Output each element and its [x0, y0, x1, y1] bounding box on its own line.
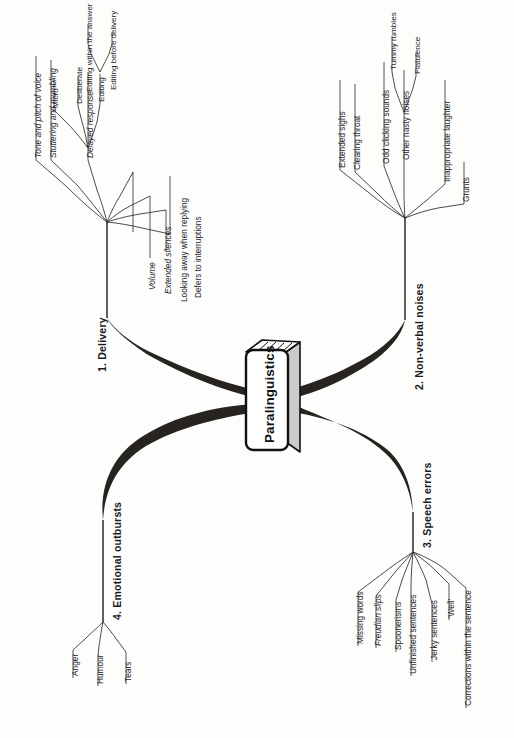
node-micro[interactable]: Micro: [52, 88, 60, 108]
branch-label-speech-errors[interactable]: 3. Speech errors: [422, 463, 433, 549]
node-volume[interactable]: Volume: [148, 262, 156, 290]
node-editing-before-delivery[interactable]: Editing before delivery: [110, 11, 118, 90]
node-tone-and-pitch-of-voice[interactable]: Tone and pitch of voice: [34, 73, 42, 158]
node-well[interactable]: 'Well': [447, 599, 455, 618]
node-odd-clicking-sounds[interactable]: Odd clicking sounds: [382, 90, 390, 164]
node-unfinished-sentences[interactable]: Unfinished sentences: [409, 595, 417, 674]
main-branch-3-stroke: [292, 404, 413, 512]
node-corrections-within-the-sentence[interactable]: Corrections within the sentence: [464, 590, 472, 706]
node-jerky-sentences[interactable]: Jerky sentences: [430, 600, 438, 660]
node-defers-to-interruptions[interactable]: Defers to interruptions: [194, 216, 202, 298]
node-other-nasty-noises[interactable]: Other nasty noises: [402, 91, 410, 160]
branch-label-non-verbal-noises[interactable]: 2. Non-verbal noises: [414, 283, 425, 390]
node-inappropriate-laughter[interactable]: Inappropriate laughter: [443, 101, 451, 182]
node-tummy-rumbles[interactable]: Tummy rumbles: [390, 12, 398, 70]
center-node-title: Paralinguistics: [262, 345, 277, 443]
node-grunts[interactable]: Grunts: [462, 177, 470, 202]
node-extended-silences[interactable]: Extended silences: [164, 227, 172, 294]
node-missing-words[interactable]: Missing words: [356, 591, 364, 644]
node-humour[interactable]: Humour: [96, 654, 104, 684]
node-extended-sighs[interactable]: Extended sighs: [338, 111, 346, 168]
node-looking-away-when-replying[interactable]: Looking away when replying: [180, 198, 188, 302]
main-branch-4-stroke: [102, 404, 258, 520]
branch-label-emotional-outbursts[interactable]: 4. Emotional outbursts: [112, 502, 123, 620]
mindmap-root: Paralinguistics 1. Delivery Tone and pit…: [0, 0, 514, 738]
node-editing-within-the-answer[interactable]: Editing within the answer: [86, 4, 94, 93]
node-clearing-throat[interactable]: Clearing throat: [353, 116, 361, 170]
node-anger[interactable]: Anger: [71, 654, 79, 676]
node-delayed-response[interactable]: Delayed response: [86, 91, 94, 158]
node-editing[interactable]: Editing: [98, 77, 106, 102]
node-tears[interactable]: Tears: [124, 662, 132, 682]
node-freudian-slips[interactable]: Freudian slips: [374, 594, 382, 646]
node-stuttering-and-mumbling[interactable]: Stuttering and mumbling: [49, 68, 57, 158]
node-flatulence[interactable]: Flatulence: [414, 37, 422, 74]
branch-label-delivery[interactable]: 1. Delivery: [97, 317, 108, 372]
node-deliberate[interactable]: Deliberate: [76, 67, 84, 104]
node-spoonerisms[interactable]: Spoonerisms: [394, 602, 402, 650]
